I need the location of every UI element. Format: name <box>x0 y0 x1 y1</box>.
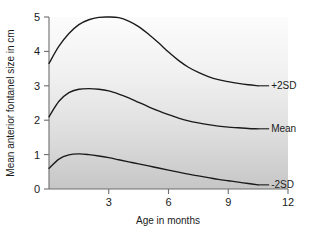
x-axis-title: Age in months <box>136 215 200 226</box>
y-tick-label-2: 2 <box>34 114 40 126</box>
y-tick-label-1: 1 <box>34 149 40 161</box>
plot-area-background <box>49 17 288 189</box>
fontanel-growth-chart: 0 1 2 3 4 5 3 6 9 12 Age in months Mean … <box>0 0 312 237</box>
y-tick-label-4: 4 <box>34 45 40 57</box>
x-tick-label-3: 3 <box>106 196 112 208</box>
x-tick-label-9: 9 <box>225 196 231 208</box>
series-label-plus-2sd: +2SD <box>271 80 296 91</box>
y-tick-label-3: 3 <box>34 80 40 92</box>
x-tick-label-6: 6 <box>165 196 171 208</box>
x-tick-label-12: 12 <box>282 196 294 208</box>
y-tick-label-5: 5 <box>34 11 40 23</box>
series-label-mean: Mean <box>271 123 296 134</box>
y-axis-title: Mean anterior fontanel size in cm <box>5 29 16 176</box>
chart-canvas: 0 1 2 3 4 5 3 6 9 12 Age in months Mean … <box>0 0 312 237</box>
y-tick-label-0: 0 <box>34 183 40 195</box>
series-label-minus-2sd: -2SD <box>271 179 294 190</box>
